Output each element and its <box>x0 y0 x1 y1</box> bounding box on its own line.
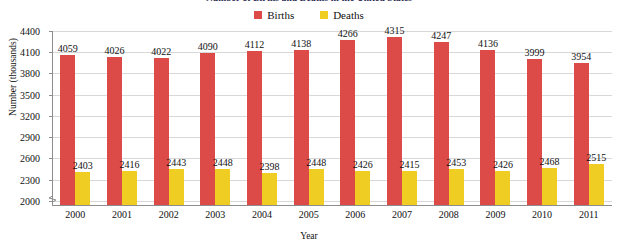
bar-value-label: 2453 <box>446 157 466 168</box>
legend-label-deaths: Deaths <box>333 9 364 21</box>
bar-value-label: 2443 <box>166 157 186 168</box>
bar-value-label: 4090 <box>198 41 218 52</box>
y-tick-label: 3800 <box>0 68 40 79</box>
bar-births[interactable]: 4138 <box>294 50 309 205</box>
y-tick-label: 3500 <box>0 89 40 100</box>
bar-layer: 4059240340262416402224434090244841122398… <box>52 31 612 205</box>
bar-group: 40222443 <box>145 31 192 205</box>
bar-value-label: 2415 <box>400 159 420 170</box>
bar-deaths[interactable]: 2398 <box>262 173 277 205</box>
bar-group: 43152415 <box>379 31 426 205</box>
bar-deaths[interactable]: 2448 <box>309 169 324 205</box>
bar-deaths[interactable]: 2426 <box>495 171 510 205</box>
legend-item-births[interactable]: Births <box>254 9 294 21</box>
bar-value-label: 4022 <box>151 46 171 57</box>
bar-deaths[interactable]: 2415 <box>402 171 417 205</box>
bar-value-label: 2416 <box>120 159 140 170</box>
x-tick-label: 2001 <box>99 209 146 220</box>
bar-group: 41122398 <box>239 31 286 205</box>
bar-value-label: 4136 <box>478 38 498 49</box>
y-tick-label: 2600 <box>0 153 40 164</box>
bar-births[interactable]: 4112 <box>247 51 262 205</box>
bar-value-label: 3999 <box>525 47 545 58</box>
bar-value-label: 4112 <box>245 39 265 50</box>
bar-chart: Number of Births and Deaths in the Unite… <box>0 0 618 247</box>
bar-value-label: 2398 <box>260 161 280 172</box>
y-tick-label: 3200 <box>0 110 40 121</box>
bar-births[interactable]: 4059 <box>60 55 75 205</box>
x-tick-label: 2000 <box>52 209 99 220</box>
bar-group: 42662426 <box>332 31 379 205</box>
bar-value-label: 3954 <box>571 51 591 62</box>
bar-value-label: 2448 <box>306 157 326 168</box>
bar-value-label: 2426 <box>353 159 373 170</box>
bar-deaths[interactable]: 2416 <box>122 171 137 205</box>
x-tick-label: 2010 <box>519 209 566 220</box>
legend-item-deaths[interactable]: Deaths <box>320 9 364 21</box>
bar-group: 40262416 <box>99 31 146 205</box>
x-tick-label: 2011 <box>565 209 612 220</box>
bar-births[interactable]: 3999 <box>527 59 542 205</box>
bar-group: 40902448 <box>192 31 239 205</box>
bar-deaths[interactable]: 2468 <box>542 168 557 205</box>
bar-group: 39542515 <box>565 31 612 205</box>
chart-legend: Births Deaths <box>0 9 618 21</box>
bar-births[interactable]: 4026 <box>107 57 122 205</box>
bar-group: 39992468 <box>519 31 566 205</box>
chart-title: Number of Births and Deaths in the Unite… <box>0 0 618 3</box>
bar-deaths[interactable]: 2403 <box>75 172 90 205</box>
x-tick-label: 2003 <box>192 209 239 220</box>
bar-deaths[interactable]: 2443 <box>169 169 184 205</box>
y-tick-label: 4400 <box>0 26 40 37</box>
x-axis-line <box>52 205 612 206</box>
bar-value-label: 4315 <box>385 25 405 36</box>
bar-value-label: 4026 <box>105 45 125 56</box>
bar-group: 41362426 <box>472 31 519 205</box>
x-tick-label: 2002 <box>145 209 192 220</box>
x-tick-label: 2008 <box>425 209 472 220</box>
y-tick-label: 2000 <box>0 195 40 206</box>
bar-births[interactable]: 4136 <box>480 50 495 205</box>
bar-deaths[interactable]: 2426 <box>355 171 370 205</box>
bar-value-label: 4059 <box>58 43 78 54</box>
legend-label-births: Births <box>267 9 294 21</box>
bar-deaths[interactable]: 2515 <box>589 164 604 205</box>
bar-value-label: 2448 <box>213 157 233 168</box>
legend-swatch-births-icon <box>254 11 262 19</box>
bar-group: 40592403 <box>52 31 99 205</box>
bar-value-label: 4138 <box>291 38 311 49</box>
bar-group: 42472453 <box>425 31 472 205</box>
bar-value-label: 2426 <box>493 159 513 170</box>
y-tick-label: 2300 <box>0 174 40 185</box>
bar-births[interactable]: 4266 <box>340 40 355 205</box>
x-tick-label: 2007 <box>379 209 426 220</box>
bar-value-label: 2515 <box>586 152 606 163</box>
x-tick-label: 2004 <box>239 209 286 220</box>
bar-value-label: 4266 <box>338 28 358 39</box>
bar-births[interactable]: 4022 <box>154 58 169 205</box>
bar-deaths[interactable]: 2448 <box>215 169 230 205</box>
y-tick-label: 4100 <box>0 47 40 58</box>
bar-group: 41382448 <box>285 31 332 205</box>
x-tick-label: 2006 <box>332 209 379 220</box>
x-axis-title: Year <box>0 231 618 241</box>
bar-births[interactable]: 3954 <box>574 63 589 205</box>
y-tick-label: 2900 <box>0 132 40 143</box>
bar-deaths[interactable]: 2453 <box>449 169 464 205</box>
bar-value-label: 2403 <box>73 160 93 171</box>
bar-births[interactable]: 4247 <box>434 42 449 205</box>
legend-swatch-deaths-icon <box>320 11 328 19</box>
x-axis-tick-labels: 2000200120022003200420052006200720082009… <box>52 209 612 220</box>
x-tick-label: 2009 <box>472 209 519 220</box>
bar-births[interactable]: 4315 <box>387 37 402 205</box>
bar-value-label: 4247 <box>431 30 451 41</box>
bar-births[interactable]: 4090 <box>200 53 215 205</box>
x-tick-label: 2005 <box>285 209 332 220</box>
bar-value-label: 2468 <box>540 156 560 167</box>
